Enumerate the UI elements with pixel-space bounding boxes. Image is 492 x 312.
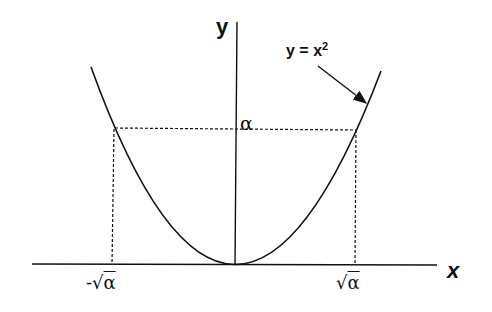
alpha-label: α [240,112,253,134]
curve-equation-label: y = x2 [286,40,328,60]
equation-exponent: 2 [322,40,328,52]
y-axis-label: y [216,14,228,40]
pos-root-label: √α [336,272,360,293]
neg-root-dashed-line [112,129,114,264]
pos-root-prefix: √ [336,272,347,293]
curve-pointer-arrow [318,66,366,103]
diagram-graphics [0,0,492,312]
neg-root-radicand: α [104,272,116,293]
neg-root-prefix: -√ [86,272,104,293]
neg-root-label: -√α [86,272,116,293]
pos-root-dashed-line [355,130,356,265]
pos-root-radicand: α [347,272,359,293]
equation-base: y = x [286,42,322,59]
x-axis-label: x [447,258,459,284]
parabola-diagram: y x α y = x2 -√α √α [0,0,492,312]
y-axis [235,22,237,265]
